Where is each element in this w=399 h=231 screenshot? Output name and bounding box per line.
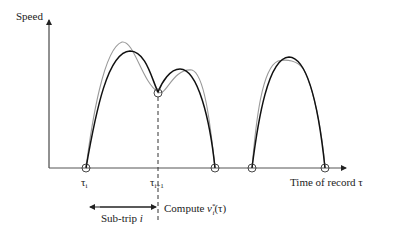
observed-speed-curve-2: [252, 60, 325, 168]
y-axis-label: Speed: [16, 10, 43, 22]
estimated-speed-curve-2: [252, 57, 325, 168]
subtrip-label: Sub-trip i: [101, 212, 143, 224]
speed-diagram: Speed Time of record τ τi τi+1 Sub-trip …: [0, 0, 399, 231]
compute-label: Compute v*i(τ): [164, 202, 227, 217]
tick-label-tau-i: τi: [81, 176, 87, 190]
tick-label-tau-i-plus-1: τi+1: [150, 176, 164, 190]
x-axis-label: Time of record τ: [290, 176, 363, 188]
observed-speed-curve-1: [86, 42, 215, 168]
